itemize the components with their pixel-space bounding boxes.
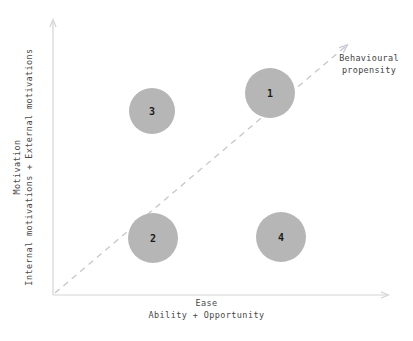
y-axis-caption: Motivation Internal motivations + Extern… bbox=[11, 27, 35, 307]
trend-line-caption: Behavioural propensity bbox=[326, 52, 412, 76]
x-axis-caption: Ease Ability + Opportunity bbox=[0, 297, 413, 321]
trend-label-line-1: Behavioural bbox=[326, 52, 412, 64]
trend-line bbox=[55, 46, 346, 293]
x-axis-title: Ease bbox=[0, 297, 413, 309]
bubble-4[interactable]: 4 bbox=[256, 212, 306, 262]
trend-label-line-2: propensity bbox=[326, 64, 412, 76]
bubble-group: 1 3 2 4 bbox=[128, 68, 306, 263]
bubble-2-label: 2 bbox=[150, 233, 156, 244]
bubble-1[interactable]: 1 bbox=[245, 68, 295, 118]
x-axis-subtitle: Ability + Opportunity bbox=[0, 309, 413, 321]
bubble-2[interactable]: 2 bbox=[128, 213, 178, 263]
bubble-4-label: 4 bbox=[278, 232, 284, 243]
bubble-1-label: 1 bbox=[267, 88, 273, 99]
y-axis-title: Motivation bbox=[11, 27, 23, 307]
bubble-3[interactable]: 3 bbox=[129, 88, 175, 134]
bubble-3-label: 3 bbox=[149, 106, 155, 117]
behavioural-propensity-matrix: 1 3 2 4 Ease Ability + Opportunity Motiv… bbox=[0, 0, 413, 341]
y-axis-subtitle: Internal motivations + External motivati… bbox=[23, 27, 35, 307]
